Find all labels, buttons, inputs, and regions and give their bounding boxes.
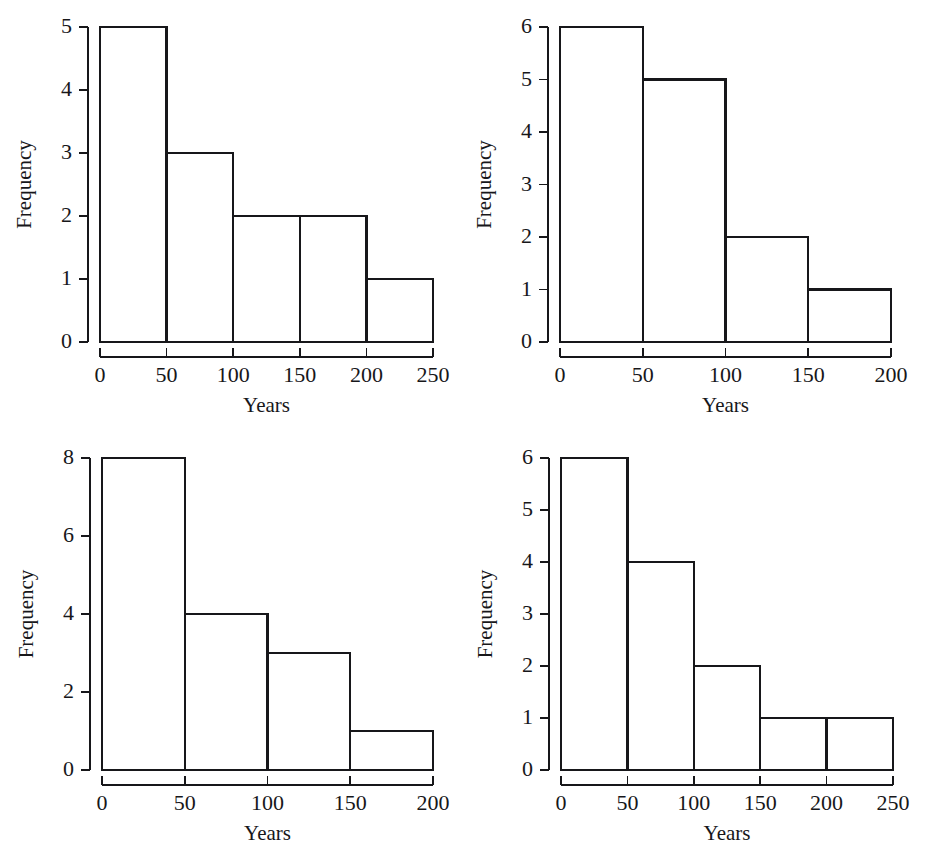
x-tick-label: 250	[877, 790, 910, 815]
histogram-bar	[726, 237, 809, 342]
y-tick-label: 2	[61, 202, 72, 227]
histogram-bar	[350, 731, 433, 770]
x-tick-label: 150	[283, 362, 316, 387]
y-axis-title: Frequency	[12, 140, 36, 229]
histogram-bar	[167, 153, 234, 342]
x-tick-label: 50	[156, 362, 178, 387]
histogram-bar	[827, 718, 893, 770]
x-tick-label: 100	[709, 362, 742, 387]
panel-top-left: 012345Frequency050100150200250Years	[0, 0, 453, 412]
x-tick-label: 100	[217, 362, 250, 387]
y-tick-label: 3	[521, 171, 532, 196]
y-tick-label: 5	[61, 13, 72, 38]
x-tick-label: 0	[95, 362, 106, 387]
histogram-bar	[627, 562, 693, 770]
panel-top-right: 0123456Frequency050100150200Years	[460, 0, 911, 412]
histogram-bars	[100, 27, 433, 342]
x-tick-label: 100	[251, 790, 284, 815]
x-tick-label: 150	[744, 790, 777, 815]
histogram-bar	[300, 216, 367, 342]
x-tick-label: 150	[334, 790, 367, 815]
y-axis-title: Frequency	[473, 569, 497, 658]
x-tick-label: 50	[632, 362, 654, 387]
histogram-bar	[102, 458, 185, 770]
x-tick-label: 0	[97, 790, 108, 815]
chart-svg: 012345Frequency050100150200250Years	[0, 0, 453, 412]
y-tick-label: 2	[522, 652, 533, 677]
histogram-bar	[185, 614, 268, 770]
x-axis-title: Years	[244, 821, 291, 845]
histogram-bars	[561, 458, 893, 770]
y-tick-label: 3	[61, 139, 72, 164]
histogram-bar	[561, 458, 627, 770]
y-tick-label: 2	[521, 223, 532, 248]
y-tick-label: 1	[61, 265, 72, 290]
y-tick-label: 4	[63, 600, 74, 625]
histogram-bars	[560, 27, 891, 342]
panel-bottom-left: 02468Frequency050100150200Years	[2, 418, 453, 840]
y-tick-label: 4	[522, 548, 533, 573]
y-tick-label: 5	[521, 66, 532, 91]
histogram-bar	[808, 290, 891, 343]
x-tick-label: 250	[417, 362, 450, 387]
x-tick-label: 100	[677, 790, 710, 815]
x-tick-label: 0	[555, 362, 566, 387]
y-tick-label: 1	[522, 704, 533, 729]
y-tick-label: 8	[63, 444, 74, 469]
histogram-bar	[366, 279, 433, 342]
x-tick-label: 200	[875, 362, 908, 387]
y-tick-label: 4	[61, 76, 72, 101]
histogram-bar	[268, 653, 351, 770]
y-tick-label: 5	[522, 496, 533, 521]
x-axis-title: Years	[702, 393, 749, 417]
y-tick-label: 0	[521, 328, 532, 353]
x-tick-label: 200	[810, 790, 843, 815]
y-tick-label: 6	[521, 13, 532, 38]
x-axis-title: Years	[704, 821, 751, 845]
x-tick-label: 50	[174, 790, 196, 815]
histogram-bar	[560, 27, 643, 342]
y-tick-label: 1	[521, 276, 532, 301]
chart-svg: 0123456Frequency050100150200250Years	[461, 418, 913, 840]
histogram-bar	[643, 80, 726, 343]
y-tick-label: 4	[521, 118, 532, 143]
histogram-bar	[233, 216, 300, 342]
chart-svg: 0123456Frequency050100150200Years	[460, 0, 911, 412]
x-axis-title: Years	[243, 393, 290, 417]
chart-svg: 02468Frequency050100150200Years	[2, 418, 453, 840]
x-tick-label: 0	[556, 790, 567, 815]
y-tick-label: 6	[63, 522, 74, 547]
y-tick-label: 6	[522, 444, 533, 469]
x-tick-label: 200	[350, 362, 383, 387]
histogram-bar	[100, 27, 167, 342]
y-tick-label: 0	[63, 756, 74, 781]
y-tick-label: 2	[63, 678, 74, 703]
y-tick-label: 3	[522, 600, 533, 625]
y-tick-label: 0	[61, 328, 72, 353]
histogram-bar	[694, 666, 760, 770]
histogram-figure: 012345Frequency050100150200250Years 0123…	[0, 0, 927, 863]
x-tick-label: 50	[616, 790, 638, 815]
y-axis-title: Frequency	[14, 569, 38, 658]
x-tick-label: 200	[417, 790, 450, 815]
histogram-bars	[102, 458, 433, 770]
panel-bottom-right: 0123456Frequency050100150200250Years	[461, 418, 913, 840]
x-tick-label: 150	[792, 362, 825, 387]
histogram-bar	[760, 718, 826, 770]
y-tick-label: 0	[522, 756, 533, 781]
y-axis-title: Frequency	[472, 140, 496, 229]
